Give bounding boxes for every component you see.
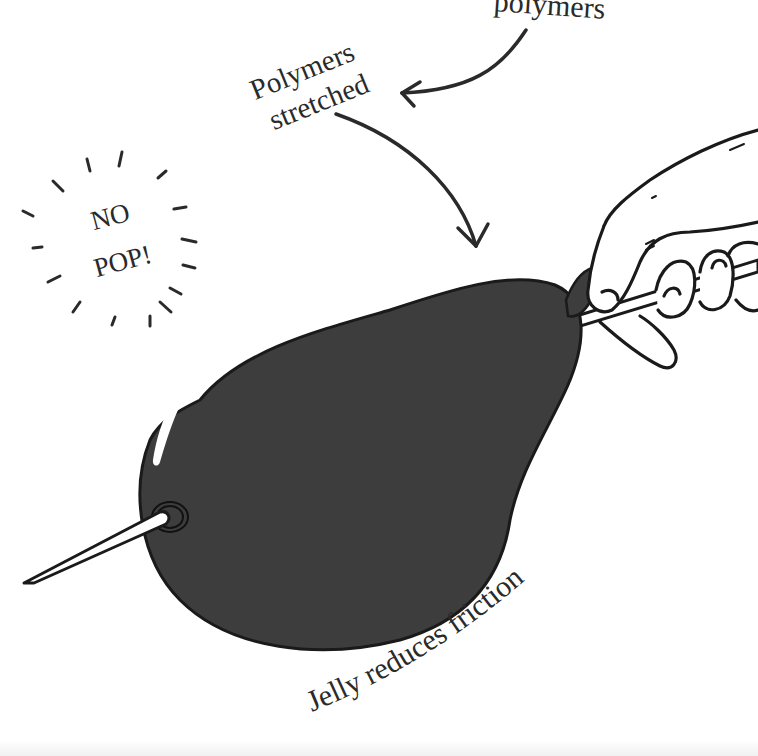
page-edge-shadow xyxy=(0,740,758,756)
illustration-svg: Jelly reduces friction xyxy=(0,0,758,756)
burst-lines-icon xyxy=(23,152,196,326)
hand-icon xyxy=(588,130,758,368)
balloon-icon xyxy=(140,268,597,650)
illustration-canvas: Jelly reduces friction polymers Polymers… xyxy=(0,0,758,756)
curved-arrow-icon xyxy=(402,30,526,106)
curved-arrow-icon xyxy=(336,114,488,246)
